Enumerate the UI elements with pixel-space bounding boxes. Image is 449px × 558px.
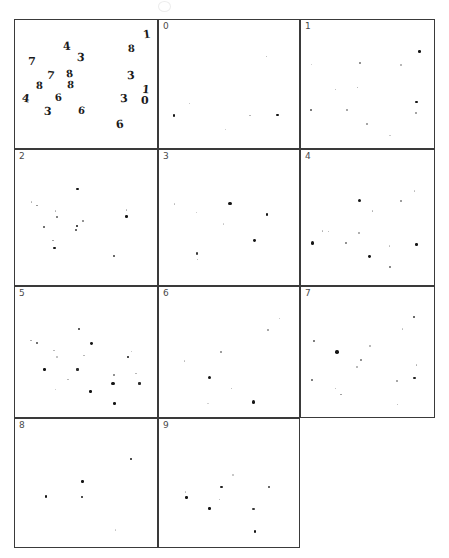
scatter-point: [413, 316, 415, 318]
scatter-point: [254, 530, 257, 533]
scatter-point: [220, 351, 222, 353]
handwritten-digit: 6: [115, 118, 124, 130]
scatter-point: [340, 394, 342, 396]
scatter-point: [184, 360, 186, 362]
scatter-point: [322, 230, 324, 232]
scatter-point: [358, 199, 361, 202]
scatter-point: [335, 388, 337, 390]
scatter-point: [389, 245, 391, 247]
scatter-point: [78, 328, 80, 330]
plot-area: [301, 287, 434, 417]
scatter-point: [415, 101, 418, 104]
scatter-point: [311, 241, 314, 244]
scatter-point: [52, 240, 54, 242]
panel-grid: 1487378388146303660123456789: [14, 19, 435, 548]
scatter-point: [276, 114, 279, 117]
scatter-point: [415, 112, 417, 114]
scatter-point: [83, 355, 85, 357]
scatter-point: [174, 203, 175, 204]
scatter-point: [36, 205, 38, 207]
plot-area: 148737838814630366: [15, 20, 157, 148]
scatter-point: [357, 87, 359, 89]
scatter-point: [75, 229, 77, 231]
scatter-point: [126, 209, 128, 211]
class-panel-9[interactable]: 9: [158, 418, 300, 548]
handwritten-digit: 3: [77, 52, 85, 64]
plot-area: [15, 150, 157, 285]
scatter-point: [127, 356, 130, 359]
handwritten-digit: 8: [35, 81, 42, 91]
scatter-point: [252, 508, 254, 510]
plot-area: [159, 419, 299, 547]
plot-area: [159, 150, 299, 285]
class-panel-6[interactable]: 6: [158, 286, 300, 418]
scatter-point: [220, 486, 222, 488]
handwritten-digit: 3: [127, 70, 135, 82]
scatter-point: [266, 213, 269, 216]
scatter-point: [366, 123, 368, 125]
class-panel-5[interactable]: 5: [14, 286, 158, 418]
scatter-point: [268, 486, 270, 488]
scatter-point: [396, 380, 398, 382]
plot-area: [159, 287, 299, 417]
scatter-point: [249, 115, 251, 117]
scatter-point: [113, 374, 115, 376]
class-panel-7[interactable]: 7: [300, 286, 435, 418]
scatter-point: [416, 364, 418, 366]
scatter-point: [131, 351, 133, 353]
scatter-point: [173, 114, 175, 116]
scatter-point: [81, 480, 84, 483]
scatter-point: [31, 201, 33, 203]
handwritten-digit: 0: [141, 95, 149, 106]
scatter-point: [185, 496, 188, 499]
handwritten-digit: 4: [22, 93, 31, 105]
plot-area: [15, 419, 157, 547]
scatter-point: [369, 345, 371, 347]
scatter-point: [207, 403, 208, 404]
scatter-point: [402, 328, 404, 330]
scatter-point: [335, 89, 337, 91]
scatter-point: [223, 223, 224, 224]
handwritten-digit: 1: [143, 28, 152, 40]
class-panel-2[interactable]: 2: [14, 149, 158, 286]
handwritten-digit: 6: [78, 106, 86, 117]
scatter-point: [252, 400, 255, 403]
plot-area: [15, 287, 157, 417]
scatter-point: [346, 109, 348, 111]
handwritten-digits-panel[interactable]: 148737838814630366: [14, 19, 158, 149]
scatter-point: [208, 376, 212, 380]
plot-area: [301, 20, 434, 148]
faint-smudge-artifact: [158, 1, 171, 12]
scatter-point: [113, 255, 115, 257]
class-panel-0[interactable]: 0: [158, 19, 300, 149]
scatter-point: [208, 507, 211, 510]
scatter-point: [328, 231, 330, 233]
scatter-point: [335, 350, 339, 354]
class-panel-8[interactable]: 8: [14, 418, 158, 548]
handwritten-digit: 8: [128, 44, 135, 54]
scatter-point: [414, 190, 415, 191]
scatter-point: [55, 210, 57, 212]
scatter-point: [135, 373, 137, 375]
scatter-point: [389, 135, 390, 136]
scatter-point: [400, 200, 402, 202]
scatter-point: [125, 215, 128, 218]
class-panel-4[interactable]: 4: [300, 149, 435, 286]
scatter-point: [45, 495, 47, 497]
scatter-point: [76, 368, 78, 370]
scatter-point: [368, 255, 371, 258]
scatter-point: [196, 212, 197, 213]
handwritten-digit: 7: [28, 56, 36, 67]
scatter-point: [55, 389, 57, 391]
class-panel-1[interactable]: 1: [300, 19, 435, 149]
scatter-point: [130, 458, 132, 460]
scatter-point: [389, 266, 391, 268]
handwritten-digit: 4: [62, 40, 71, 52]
scatter-point: [232, 474, 233, 475]
scatter-point: [279, 318, 281, 320]
plot-area: [159, 20, 299, 148]
class-panel-3[interactable]: 3: [158, 149, 300, 286]
handwritten-digit: 3: [120, 93, 128, 104]
scatter-point: [89, 390, 92, 393]
figure-root: 1487378388146303660123456789: [0, 0, 449, 558]
